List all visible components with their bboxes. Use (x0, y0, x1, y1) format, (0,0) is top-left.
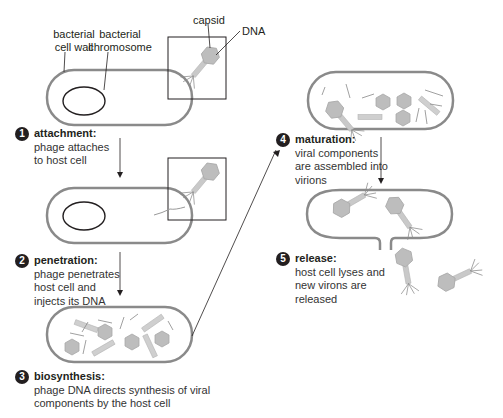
step-biosynthesis: 3 biosynthesis: phage DNA directs synthe… (34, 370, 210, 411)
step-title: release: (295, 252, 385, 266)
lytic-cycle-diagram (0, 0, 503, 418)
step-title: maturation: (295, 133, 388, 147)
step-badge: 5 (276, 252, 290, 266)
cell-penetration (47, 158, 226, 243)
step-badge: 3 (15, 370, 29, 384)
step-maturation: 4 maturation: viral components are assem… (295, 133, 388, 187)
label-bacterial-chromosome: bacterial chromosome (85, 28, 155, 54)
step-badge: 4 (276, 133, 290, 147)
step-title: penetration: (34, 254, 120, 268)
step-badge: 2 (15, 254, 29, 268)
step-badge: 1 (15, 127, 29, 141)
step-title: attachment: (34, 127, 109, 141)
label-capsid: capsid (193, 14, 225, 27)
step-attachment: 1 attachment: phage attaches to host cel… (34, 127, 109, 168)
step-release: 5 release: host cell lyses and new viron… (295, 252, 385, 306)
label-dna: DNA (242, 25, 265, 38)
step-penetration: 2 penetration: phage penetrates host cel… (34, 254, 120, 308)
cell-biosynthesis (47, 307, 192, 362)
step-title: biosynthesis: (34, 370, 210, 384)
